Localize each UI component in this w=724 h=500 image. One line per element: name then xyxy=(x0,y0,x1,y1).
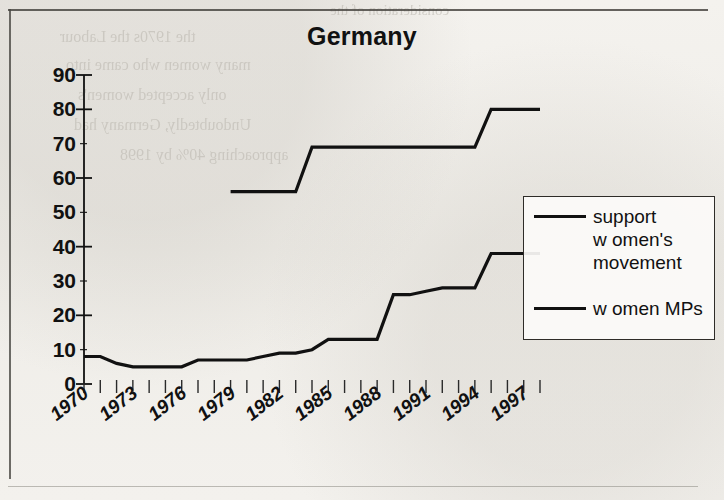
x-axis-label-1997: 1997 xyxy=(486,382,533,425)
legend-label-line-1: support xyxy=(593,205,682,228)
x-axis-label-1985: 1985 xyxy=(290,382,337,425)
legend-entry-women-mps[interactable]: w omen MPs xyxy=(534,297,703,320)
chart-legend[interactable]: support w omen's movement w omen MPs xyxy=(523,196,715,340)
legend-label-line-2: w omen's xyxy=(593,228,682,251)
legend-entry-support-womens-movement[interactable]: support w omen's movement xyxy=(534,205,682,274)
x-axis-label-1979: 1979 xyxy=(193,382,240,425)
x-axis-label-1982: 1982 xyxy=(241,382,288,425)
x-axis-label-1988: 1988 xyxy=(339,382,386,425)
chart-figure: Germany 0102030405060708090 197019731976… xyxy=(0,0,724,500)
legend-swatch-support-womens-movement xyxy=(534,215,586,218)
legend-label-women-mps: w omen MPs xyxy=(593,297,703,320)
legend-label-line-3: movement xyxy=(593,251,682,274)
x-axis-label-1991: 1991 xyxy=(388,382,435,425)
legend-label-line-1: w omen MPs xyxy=(593,297,703,320)
legend-label-support-womens-movement: support w omen's movement xyxy=(593,205,682,274)
x-axis-label-1976: 1976 xyxy=(144,382,191,425)
x-axis-label-1994: 1994 xyxy=(437,382,484,425)
x-axis-label-1970: 1970 xyxy=(46,382,93,425)
legend-swatch-women-mps xyxy=(534,307,586,310)
x-axis-label-1973: 1973 xyxy=(95,382,142,425)
